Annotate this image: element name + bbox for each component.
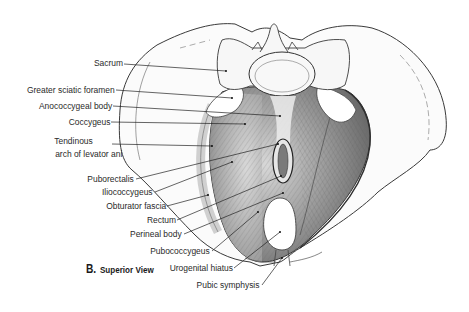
figure-caption: B. Superior View <box>86 259 154 277</box>
label-urogenital-hiatus: Urogenital hiatus <box>170 262 233 273</box>
label-pubococcygeus: Pubococcygeus <box>150 245 210 256</box>
caption-letter: B. <box>86 262 96 276</box>
label-obturator-fascia: Obturator fascia <box>106 200 166 211</box>
label-pubic-symphysis: Pubic symphysis <box>196 279 259 290</box>
label-perineal-body: Perineal body <box>130 228 182 239</box>
label-coccygeus: Coccygeus <box>68 116 110 127</box>
label-sacrum: Sacrum <box>94 57 123 68</box>
pelvic-floor-figure: Sacrum Greater sciatic foramen Anococcyg… <box>0 0 469 312</box>
vertebral-body <box>249 52 315 96</box>
label-iliococcygeus: Iliococcygeus <box>102 186 153 197</box>
urogenital-hiatus <box>264 198 296 250</box>
label-rectum: Rectum <box>147 214 176 225</box>
label-tendinous-arch-line1: Tendinous <box>55 135 94 146</box>
label-puborectalis: Puborectalis <box>88 173 134 184</box>
label-tendinous-arch-line2: arch of levator ani <box>55 148 122 159</box>
label-greater-sciatic-foramen: Greater sciatic foramen <box>27 84 115 95</box>
caption-view: Superior View <box>100 264 154 275</box>
label-anococcygeal-body: Anococcygeal body <box>39 100 112 111</box>
